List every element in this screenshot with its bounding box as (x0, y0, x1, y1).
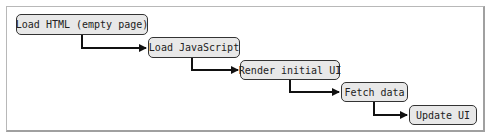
step-fetch-data: Fetch data (341, 82, 408, 102)
arrow-2-to-3 (192, 58, 238, 70)
step-label: Fetch data (344, 87, 404, 98)
step-load-html: Load HTML (empty page) (16, 14, 148, 35)
step-label: Load HTML (empty page) (16, 19, 148, 30)
arrow-3-to-4 (290, 80, 339, 92)
step-label: Load JavaScript (149, 42, 239, 53)
step-load-javascript: Load JavaScript (148, 37, 240, 58)
arrow-1-to-2 (82, 35, 146, 48)
arrow-4-to-5 (374, 102, 407, 115)
step-render-initial-ui: Render initial UI (240, 60, 340, 80)
step-label: Update UI (416, 110, 470, 121)
step-label: Render initial UI (239, 65, 341, 76)
step-update-ui: Update UI (409, 105, 477, 125)
